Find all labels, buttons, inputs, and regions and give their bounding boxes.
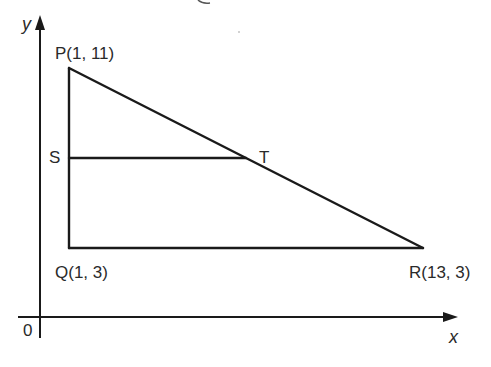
cropped-glyph <box>198 0 210 3</box>
speck <box>238 31 240 33</box>
triangle-diagram: y x 0 P(1, 11) S T Q(1, 3) R(13, 3) <box>0 0 491 367</box>
x-axis-label: x <box>448 327 459 347</box>
origin-label: 0 <box>23 321 32 340</box>
x-axis-arrow-icon <box>443 312 458 322</box>
y-axis-label: y <box>20 14 32 34</box>
y-axis-arrow-icon <box>35 15 45 30</box>
point-R-label: R(13, 3) <box>409 263 470 282</box>
point-P-label: P(1, 11) <box>55 44 114 63</box>
point-S-label: S <box>49 148 60 167</box>
point-T-label: T <box>259 148 269 167</box>
point-Q-label: Q(1, 3) <box>55 263 108 282</box>
